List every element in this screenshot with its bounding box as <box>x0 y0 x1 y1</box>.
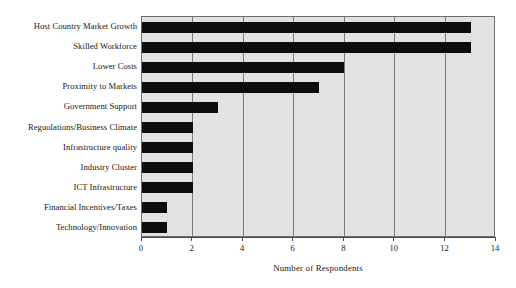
cropped-title-remnant <box>0 0 516 7</box>
x-tick-mark <box>242 237 243 241</box>
bar-chart-figure: Host Country Market GrowthSkilled Workfo… <box>0 0 516 288</box>
bar <box>142 22 471 33</box>
bar <box>142 162 193 173</box>
category-label: ICT Infrastructure <box>0 182 137 192</box>
category-label: Reguolations/Business Climate <box>0 122 137 132</box>
x-tick-mark <box>343 237 344 241</box>
plot-area <box>141 16 495 237</box>
bar <box>142 182 193 193</box>
x-tick-label: 10 <box>379 243 409 253</box>
bar <box>142 122 193 133</box>
category-label: Host Country Market Growth <box>0 21 137 31</box>
bar <box>142 202 167 213</box>
bar <box>142 102 218 113</box>
x-tick-label: 2 <box>177 243 207 253</box>
x-tick-label: 12 <box>429 243 459 253</box>
category-label: Financial Incentives/Taxes <box>0 202 137 212</box>
x-tick-mark <box>393 237 394 241</box>
category-axis-labels: Host Country Market GrowthSkilled Workfo… <box>0 16 137 237</box>
x-tick-mark <box>191 237 192 241</box>
x-tick-label: 8 <box>328 243 358 253</box>
bar <box>142 62 344 73</box>
x-tick-mark <box>444 237 445 241</box>
bar <box>142 42 471 53</box>
x-tick-label: 14 <box>480 243 510 253</box>
x-axis-line <box>141 237 495 238</box>
x-tick-label: 0 <box>126 243 156 253</box>
x-tick-mark <box>292 237 293 241</box>
x-tick-label: 4 <box>227 243 257 253</box>
bar <box>142 82 319 93</box>
x-axis-title: Number of Respondents <box>141 263 495 274</box>
category-label: Proximity to Markets <box>0 81 137 91</box>
category-label: Technology/Innovation <box>0 222 137 232</box>
x-tick-label: 6 <box>278 243 308 253</box>
category-label: Infrastructure quality <box>0 142 137 152</box>
bar <box>142 222 167 233</box>
category-label: Skilled Workforce <box>0 41 137 51</box>
category-label: Government Support <box>0 101 137 111</box>
bar <box>142 142 193 153</box>
x-tick-mark <box>141 237 142 241</box>
x-tick-mark <box>495 237 496 241</box>
category-label: Industry Cluster <box>0 162 137 172</box>
category-label: Lower Costs <box>0 61 137 71</box>
